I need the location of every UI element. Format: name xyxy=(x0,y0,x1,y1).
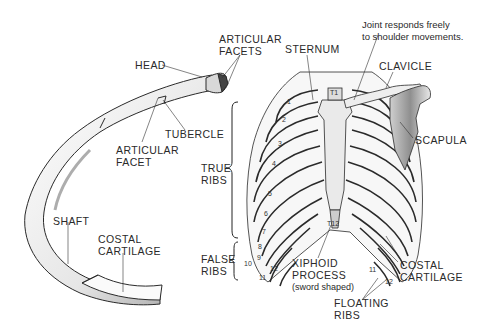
rib-number-4: 4 xyxy=(272,160,276,167)
label-articular-facets: ARTICULAR FACETS xyxy=(219,33,282,57)
label-sternum: STERNUM xyxy=(285,43,340,55)
label-joint-note: Joint responds freely to shoulder moveme… xyxy=(362,19,463,43)
label-head: HEAD xyxy=(135,59,166,71)
label-articular-facet: ARTICULAR FACET xyxy=(116,144,179,168)
rib-number-10: 10 xyxy=(244,260,252,267)
rib-number-11-right: 11 xyxy=(369,266,376,273)
rib-number-7: 7 xyxy=(262,228,266,235)
rib-number-11-left: 11 xyxy=(259,274,266,281)
sternal-t1: T1 xyxy=(330,89,338,96)
rib-number-2: 2 xyxy=(282,116,286,123)
label-true-ribs: TRUE RIBS xyxy=(201,162,231,186)
label-scapula: SCAPULA xyxy=(415,134,467,146)
label-cage-costal-cartilage: COSTAL CARTILAGE xyxy=(400,259,463,283)
rib-number-5: 5 xyxy=(268,190,272,197)
label-clavicle: CLAVICLE xyxy=(379,60,432,72)
anatomy-diagram: ARTICULAR FACETS HEAD TUBERCLE ARTICULAR… xyxy=(0,0,479,335)
rib-number-1: 1 xyxy=(287,98,291,105)
label-shaft: SHAFT xyxy=(53,215,89,227)
rib-number-12-left: 12 xyxy=(270,265,278,272)
rib-number-6: 6 xyxy=(264,210,268,217)
label-rib-costal-cartilage: COSTAL CARTILAGE xyxy=(98,233,161,257)
label-false-ribs: FALSE RIBS xyxy=(201,253,236,277)
rib-number-8: 8 xyxy=(258,243,262,250)
single-rib-illustration xyxy=(25,73,228,305)
label-xiphoid-process: XIPHOID PROCESS (sword shaped) xyxy=(292,257,354,293)
label-floating-ribs: FLOATING RIBS xyxy=(334,297,389,321)
rib-number-3: 3 xyxy=(278,140,282,147)
label-tubercle: TUBERCLE xyxy=(165,128,224,140)
rib-shaft-shape xyxy=(25,75,214,305)
rib-number-12-right: 12 xyxy=(385,278,393,285)
rib-number-9: 9 xyxy=(257,254,261,261)
sternal-t12: T12 xyxy=(327,220,339,227)
rib-cage-illustration xyxy=(247,72,431,286)
